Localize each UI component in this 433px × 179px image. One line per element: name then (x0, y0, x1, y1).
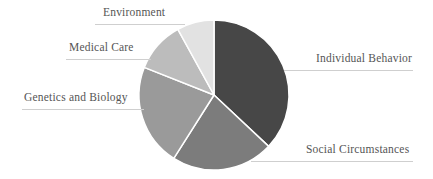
leader-line-genetics-biology (22, 109, 144, 110)
label-environment: Environment (103, 6, 165, 18)
leader-line-social-circumstances (251, 161, 413, 162)
label-medical-care: Medical Care (69, 41, 134, 53)
label-genetics-biology: Genetics and Biology (24, 91, 128, 103)
leader-line-environment (95, 24, 185, 25)
leader-line-medical-care (66, 59, 151, 60)
leader-line-individual-behavior (284, 70, 413, 71)
label-social-circumstances: Social Circumstances (306, 143, 409, 155)
label-individual-behavior: Individual Behavior (316, 52, 412, 64)
